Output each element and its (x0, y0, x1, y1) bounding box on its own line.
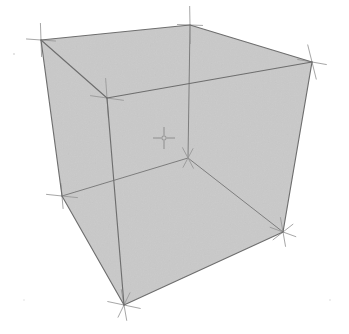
paper-speck (13, 53, 15, 55)
paper-speck (329, 299, 331, 301)
cube-illustration-canvas (0, 0, 349, 334)
cube-face-fill-group (41, 25, 312, 305)
paper-speck (23, 299, 24, 300)
cube-wireframe-svg (0, 0, 349, 334)
cube-silhouette-fill (41, 25, 312, 305)
